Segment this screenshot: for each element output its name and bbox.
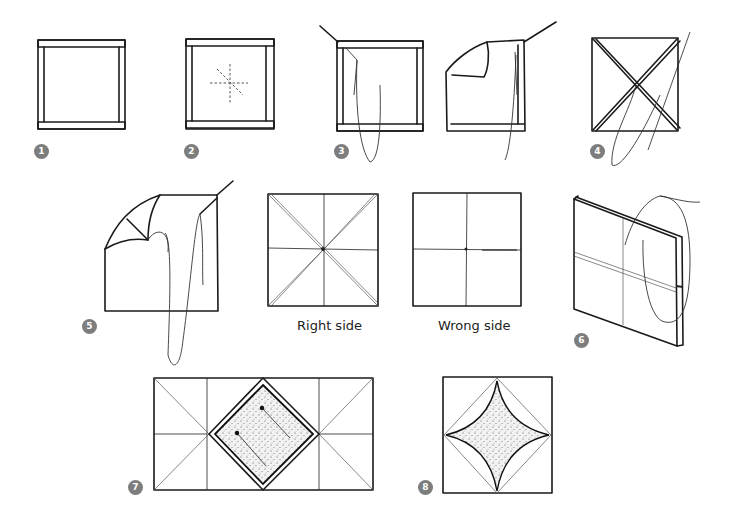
step-badge-1: 1 [34, 144, 49, 159]
step-badge-2: 2 [184, 144, 199, 159]
step-2-frame-guides [186, 39, 274, 129]
step-badge-5: 5 [82, 319, 97, 334]
step-4-diagonal-x [592, 32, 690, 166]
step-7-pinned-diamond [154, 378, 373, 490]
step-6-folded-piece [574, 196, 700, 346]
caption-wrong-side: Wrong side [438, 318, 511, 333]
wrong-side-square [413, 193, 521, 306]
step-8-curved-diamond [443, 377, 552, 493]
step-5-folding-corner [105, 181, 233, 365]
step-badge-3: 3 [334, 144, 349, 159]
step-badge-7: 7 [128, 480, 143, 495]
right-side-square [268, 194, 378, 306]
step-badge-6: 6 [574, 333, 589, 348]
step-1-frame [38, 40, 125, 129]
caption-right-side: Right side [297, 318, 362, 333]
step-badge-4: 4 [590, 144, 605, 159]
step-3-threading [320, 22, 556, 162]
instruction-illustrations [0, 0, 729, 518]
step-badge-8: 8 [418, 480, 433, 495]
